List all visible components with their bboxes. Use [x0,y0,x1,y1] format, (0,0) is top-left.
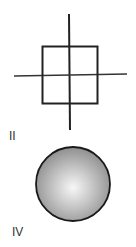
label-iv: IV [12,226,23,238]
square-cross-figure [0,0,136,130]
sphere [36,147,110,221]
vertical-axis-line [69,14,70,130]
label-ii: II [9,130,16,142]
